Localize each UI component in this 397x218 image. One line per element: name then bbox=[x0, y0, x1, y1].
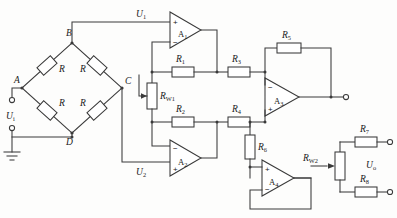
label-r5: R5 bbox=[281, 30, 291, 41]
resistor-r3-body bbox=[228, 67, 250, 77]
label-bridge-r-dc: R bbox=[79, 98, 86, 108]
bridge-network bbox=[20, 41, 123, 134]
resistor-r6 bbox=[245, 122, 255, 178]
resistor-r8 bbox=[340, 187, 393, 197]
wire-rw1-bottom-to-a2-minus bbox=[152, 122, 170, 146]
wire-a1-out-to-r1 bbox=[201, 30, 217, 72]
resistor-r4 bbox=[217, 117, 265, 127]
wire-a3-minus-to-r5 bbox=[265, 48, 277, 72]
opamp-a3-plus-sign: + bbox=[268, 105, 273, 114]
node-r6-top-dot bbox=[249, 121, 252, 124]
label-u1: U1 bbox=[136, 9, 146, 20]
label-node-d: D bbox=[65, 137, 73, 147]
label-node-b: B bbox=[66, 28, 72, 38]
label-r3: R3 bbox=[231, 54, 241, 65]
label-node-c: C bbox=[125, 76, 132, 86]
wire-a2-out-to-r2-node bbox=[201, 122, 217, 158]
potentiometer-rw2[interactable] bbox=[311, 142, 345, 192]
opamp-a1-minus-sign: − bbox=[173, 38, 178, 47]
label-r8: R8 bbox=[359, 174, 369, 185]
label-rw2: RW2 bbox=[302, 153, 318, 164]
potentiometer-rw1-body bbox=[147, 83, 157, 109]
output-terminal-a3[interactable] bbox=[343, 94, 348, 99]
label-r4: R4 bbox=[231, 104, 242, 115]
label-r2: R2 bbox=[175, 104, 185, 115]
wire-d-to-ground-rail bbox=[12, 133, 72, 137]
input-source bbox=[4, 88, 22, 160]
opamp-a2-minus-sign: − bbox=[173, 144, 178, 153]
label-r6: R6 bbox=[257, 142, 267, 153]
opamp-a2: − + A2 bbox=[170, 140, 201, 176]
resistor-r4-body bbox=[228, 117, 250, 127]
potentiometer-rw2-body bbox=[335, 152, 345, 180]
node-d-rail-dot bbox=[71, 136, 74, 139]
label-rw1: RW1 bbox=[159, 91, 175, 102]
node-a3-plus-dot bbox=[264, 121, 267, 124]
input-terminal-positive[interactable] bbox=[9, 97, 14, 102]
opamp-a3-minus-sign: − bbox=[268, 83, 273, 92]
resistor-r5-body bbox=[277, 43, 301, 53]
potentiometer-rw1-wiper-arm bbox=[139, 75, 147, 96]
wire-a1-minus-to-rw1 bbox=[152, 42, 170, 72]
wire-a-to-input-terminal bbox=[12, 88, 22, 97]
resistor-r3 bbox=[217, 67, 265, 77]
resistor-r1-body bbox=[172, 67, 194, 77]
opamp-a1-plus-sign: + bbox=[173, 18, 178, 27]
resistor-r6-body bbox=[245, 135, 255, 159]
label-r7: R7 bbox=[359, 124, 370, 135]
resistor-r8-body bbox=[355, 187, 377, 197]
resistor-r2 bbox=[152, 117, 217, 127]
label-u2: U2 bbox=[136, 167, 146, 178]
label-output-voltage: Uo bbox=[366, 160, 376, 171]
circuit-svg: R R R R B A C D Ui U1 U2 + − A1 R1 bbox=[0, 0, 397, 218]
input-terminal-negative[interactable] bbox=[9, 125, 14, 130]
label-bridge-r-ab: R bbox=[58, 64, 65, 74]
label-r1: R1 bbox=[175, 54, 185, 65]
potentiometer-rw2-wiper-arrow bbox=[328, 163, 335, 169]
wire-r5-to-a3-output bbox=[299, 48, 331, 97]
potentiometer-rw1[interactable] bbox=[139, 72, 157, 122]
opamp-a1: + − A1 bbox=[170, 12, 201, 48]
circuit-diagram: R R R R B A C D Ui U1 U2 + − A1 R1 bbox=[0, 0, 397, 218]
resistor-r1 bbox=[152, 67, 217, 77]
label-input-voltage: Ui bbox=[6, 111, 15, 122]
potentiometer-rw1-wiper-arrow bbox=[141, 93, 147, 99]
wire-b-to-a1-plus bbox=[72, 22, 170, 43]
resistor-r2-body bbox=[172, 117, 194, 127]
opamp-a4-plus-sign: + bbox=[265, 165, 270, 174]
label-bridge-r-bc: R bbox=[79, 64, 86, 74]
opamp-a4: + − A4 bbox=[262, 160, 294, 196]
node-a4-plus-dot bbox=[249, 166, 252, 169]
opamp-a3: − + A3 bbox=[265, 78, 299, 116]
label-node-a: A bbox=[13, 75, 20, 85]
output-terminal-bottom[interactable] bbox=[387, 189, 392, 194]
resistor-r7 bbox=[340, 137, 393, 147]
output-terminal-top[interactable] bbox=[387, 139, 392, 144]
label-bridge-r-ad: R bbox=[58, 98, 65, 108]
resistor-r7-body bbox=[355, 137, 377, 147]
